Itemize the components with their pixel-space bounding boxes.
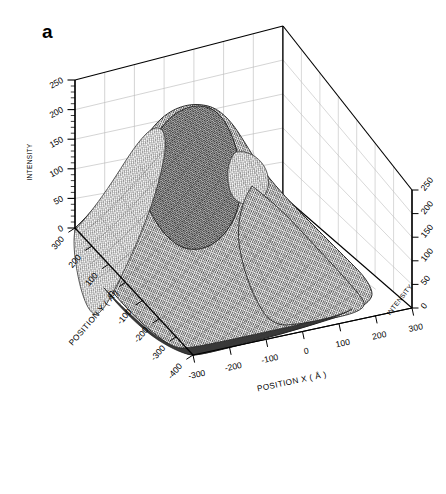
z-right-tick-0: 0 <box>418 301 429 311</box>
x-tick-0: 0 <box>303 345 310 356</box>
z-right-tick-150: 150 <box>418 222 435 240</box>
z-left-tick-150: 150 <box>48 134 66 150</box>
x-tick-neg100: -100 <box>260 352 279 365</box>
x-tick-200: 200 <box>371 329 387 342</box>
z-right-tick-200: 200 <box>418 199 435 217</box>
x-tick-100: 100 <box>335 337 351 350</box>
z-left-tick-50: 50 <box>52 193 65 206</box>
z-left-tick-0: 0 <box>56 223 65 234</box>
x-tick-neg200: -200 <box>224 360 243 373</box>
z-left-tick-200: 200 <box>48 104 66 120</box>
x-axis-title: POSITION X ( Å ) <box>256 369 328 394</box>
y-tick-300: 300 <box>49 234 66 252</box>
figure-panel-a: a <box>0 0 446 494</box>
surface-plot-3d: 250 200 150 100 50 0 INTENSITY 250 200 1… <box>0 0 446 494</box>
z-left-tick-100: 100 <box>48 164 66 180</box>
x-tick-neg300: -300 <box>187 368 206 381</box>
z-left-axis-title: INTENSITY <box>26 143 33 180</box>
z-right-tick-250: 250 <box>418 175 435 193</box>
x-tick-300: 300 <box>408 321 424 334</box>
z-right-tick-100: 100 <box>418 246 435 264</box>
y-tick-neg400: -400 <box>165 361 184 381</box>
y-tick-neg300: -300 <box>148 343 167 363</box>
z-right-tick-50: 50 <box>418 273 432 287</box>
z-left-tick-250: 250 <box>48 75 66 91</box>
axis-intensity-left: 250 200 150 100 50 0 INTENSITY <box>26 75 75 234</box>
